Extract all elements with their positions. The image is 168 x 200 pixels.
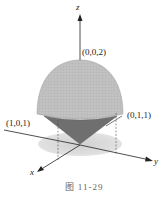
axis-x-arrow [37,166,44,172]
axis-z-label: z [76,3,80,12]
point-right-label: (0,1,1) [127,111,151,120]
point-left-label: (1,0,1) [6,119,30,128]
axis-x-label: x [30,168,34,177]
figure-canvas [0,0,168,200]
sphere-cap [37,60,123,119]
axis-y-label: y [154,157,158,166]
point-top-label: (0,0,2) [82,48,106,57]
figure-caption: 图 11-29 [0,180,168,193]
axis-z-arrow [78,14,83,21]
axis-y-arrow [145,157,153,162]
